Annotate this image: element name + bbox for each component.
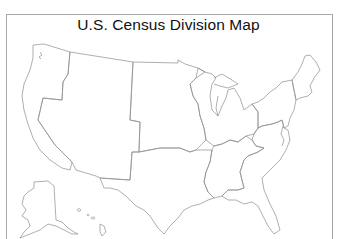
division-west-north-central[interactable] [130,60,206,152]
division-south-atlantic[interactable] [222,120,290,234]
puget-sound [39,52,42,59]
division-mountain[interactable] [38,52,140,180]
census-division-map [0,0,337,239]
division-new-england[interactable] [292,55,320,100]
division-west-south-central[interactable] [100,148,214,234]
chesapeake-bay [281,126,284,146]
division-east-north-central[interactable] [190,68,258,146]
inset-alaska[interactable] [20,181,78,238]
lake-michigan [216,96,218,116]
great-lakes-michigan [214,74,238,88]
division-pacific[interactable] [22,44,72,170]
division-middle-atlantic[interactable] [252,80,296,128]
inset-hawaii[interactable] [77,209,106,236]
